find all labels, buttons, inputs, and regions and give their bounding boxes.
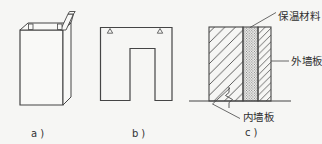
lifting-loop-icon <box>29 24 34 30</box>
panel-a-side-face <box>63 23 71 105</box>
panel-b-outline <box>101 28 173 101</box>
panel-a-caption: a) <box>31 128 47 139</box>
insulation-layer <box>243 27 258 101</box>
panel-b-caption: b) <box>132 128 148 139</box>
panel-a-return-wing-top <box>68 12 75 15</box>
insulation-leader-line <box>250 13 276 28</box>
exterior-wall-layer <box>258 27 271 101</box>
interior-wall-panel-label: 内墙板 <box>243 111 275 123</box>
insulation-label: 保温材料 <box>278 10 321 22</box>
panel-c-section-drawing: 保温材料 外墙板 内墙板 c) <box>189 10 322 138</box>
lifting-point-triangle-icon <box>157 29 162 34</box>
lifting-point-triangle-icon <box>107 29 112 34</box>
technical-drawing: a) b) 保温材料 外墙板 内墙板 c) <box>0 0 322 144</box>
lifting-loop-icon <box>58 24 63 30</box>
panel-c-caption: c) <box>245 127 260 138</box>
figure-canvas: a) b) 保温材料 外墙板 内墙板 c) <box>0 0 322 144</box>
panel-b-elevation-drawing: b) <box>101 28 173 140</box>
interior-wall-layer <box>209 27 243 101</box>
panel-a-axonometric-drawing: a) <box>20 12 75 140</box>
panel-a-front-face <box>20 30 63 105</box>
exterior-wall-panel-label: 外墙板 <box>291 55 322 67</box>
